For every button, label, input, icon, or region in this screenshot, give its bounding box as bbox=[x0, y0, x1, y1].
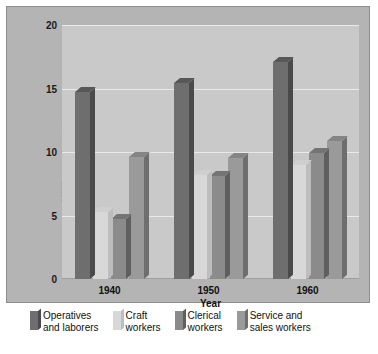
y-axis-tick-label: 10 bbox=[46, 147, 57, 158]
legend-item[interactable]: Operatives and laborers bbox=[30, 310, 99, 333]
x-axis-tick-label: 1960 bbox=[296, 285, 318, 296]
bar-face bbox=[111, 219, 126, 279]
bar bbox=[327, 141, 342, 279]
bar-side bbox=[324, 149, 329, 279]
bar-face bbox=[93, 212, 108, 279]
bar-face bbox=[129, 157, 144, 279]
bar bbox=[291, 165, 306, 279]
chart-figure: Millions of workers 05101520 19401950196… bbox=[0, 0, 378, 354]
bar-side bbox=[225, 172, 230, 279]
bar-side bbox=[126, 215, 131, 279]
gridline bbox=[62, 89, 359, 90]
bar-side bbox=[306, 161, 311, 279]
bar-side bbox=[90, 88, 95, 279]
legend-item[interactable]: Service and sales workers bbox=[237, 310, 311, 333]
bar bbox=[228, 158, 243, 279]
x-axis-tick-label: 1940 bbox=[98, 285, 120, 296]
chart-panel: Millions of workers 05101520 19401950196… bbox=[6, 6, 370, 303]
bar bbox=[75, 92, 90, 279]
y-axis-tick-label: 15 bbox=[46, 83, 57, 94]
legend-item[interactable]: Clerical workers bbox=[175, 310, 223, 333]
legend-swatch-face bbox=[113, 311, 121, 330]
legend-label: Service and sales workers bbox=[250, 310, 311, 333]
bar-side bbox=[243, 154, 248, 279]
bar-side bbox=[342, 136, 347, 279]
legend-label: Craft workers bbox=[126, 310, 161, 333]
plot-area: 05101520 194019501960 Year bbox=[62, 25, 359, 279]
bar bbox=[129, 157, 144, 279]
legend-swatch-side bbox=[121, 308, 124, 330]
bar bbox=[111, 219, 126, 279]
legend-swatch-face bbox=[237, 311, 245, 330]
bar-face bbox=[291, 165, 306, 279]
x-axis-title: Year bbox=[200, 298, 221, 309]
gridline bbox=[62, 25, 359, 26]
bar-side bbox=[189, 79, 194, 279]
bar bbox=[93, 212, 108, 279]
y-axis-tick-label: 0 bbox=[51, 274, 57, 285]
x-axis-tick-label: 1950 bbox=[197, 285, 219, 296]
legend-swatch bbox=[175, 311, 183, 330]
y-axis-tick-label: 5 bbox=[51, 210, 57, 221]
y-axis-tick-label: 20 bbox=[46, 20, 57, 31]
bar bbox=[273, 62, 288, 279]
bar-face bbox=[75, 92, 90, 279]
bar-face bbox=[210, 176, 225, 279]
bar-side bbox=[207, 171, 212, 279]
bar-side bbox=[108, 208, 113, 279]
legend-swatch-side bbox=[183, 308, 186, 330]
chart-legend: Operatives and laborersCraft workersCler… bbox=[6, 310, 370, 350]
legend-label: Operatives and laborers bbox=[43, 310, 99, 333]
bar-face bbox=[192, 175, 207, 279]
bar-face bbox=[273, 62, 288, 279]
bar bbox=[174, 83, 189, 279]
bar bbox=[309, 153, 324, 279]
bar-face bbox=[174, 83, 189, 279]
legend-swatch-side bbox=[245, 308, 248, 330]
bar bbox=[210, 176, 225, 279]
bar-face bbox=[228, 158, 243, 279]
legend-swatch-face bbox=[175, 311, 183, 330]
legend-swatch bbox=[30, 311, 38, 330]
bar bbox=[192, 175, 207, 279]
bar-face bbox=[309, 153, 324, 279]
legend-item[interactable]: Craft workers bbox=[113, 310, 161, 333]
bar-side bbox=[144, 153, 149, 279]
bar-face bbox=[327, 141, 342, 279]
legend-label: Clerical workers bbox=[188, 310, 223, 333]
legend-swatch bbox=[237, 311, 245, 330]
legend-swatch bbox=[113, 311, 121, 330]
bar-side bbox=[288, 58, 293, 279]
legend-swatch-side bbox=[38, 308, 41, 330]
legend-swatch-face bbox=[30, 311, 38, 330]
